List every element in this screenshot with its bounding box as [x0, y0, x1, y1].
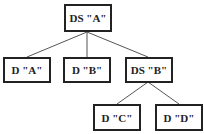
- node-ds-a: DS "A": [64, 4, 112, 32]
- edge-dsb-dd: [148, 82, 179, 104]
- edge-dsa-dsb: [87, 32, 148, 57]
- edge-dsb-dc: [117, 82, 148, 104]
- node-d-b: D "B": [63, 57, 111, 83]
- node-d-a: D "A": [3, 57, 51, 83]
- node-d-d: D "D": [155, 104, 203, 131]
- node-ds-b: DS "B": [125, 57, 173, 83]
- node-d-c: D "C": [93, 104, 141, 131]
- edge-dsa-da: [27, 32, 87, 57]
